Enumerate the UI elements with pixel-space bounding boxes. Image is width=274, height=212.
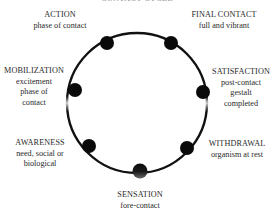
stage-desc: gestalt — [208, 88, 274, 99]
stage-desc: biological — [2, 159, 78, 170]
dot-sensation — [133, 164, 148, 179]
stage-title: FINAL CONTACT — [176, 10, 272, 21]
label-awareness: AWARENESS need, social or biological — [2, 138, 78, 170]
stage-title: AWARENESS — [2, 138, 78, 149]
stage-title: WITHDRAWAL — [200, 139, 274, 150]
label-final-contact: FINAL CONTACT full and vibrant — [176, 10, 272, 31]
stage-desc: contact — [0, 98, 68, 109]
dot-final-contact — [164, 36, 178, 50]
label-withdrawal: WITHDRAWAL organism at rest — [200, 139, 274, 160]
stage-desc: post-contact — [208, 78, 274, 89]
stage-desc: organism at rest — [200, 150, 274, 161]
stage-title: ACTION — [20, 10, 100, 21]
stage-title: SENSATION — [90, 190, 190, 201]
dot-mobilization — [68, 83, 82, 97]
label-satisfaction: SATISFACTION post-contact gestalt comple… — [208, 67, 274, 109]
stage-title: MOBILIZATION — [0, 66, 68, 77]
label-action: ACTION phase of contact — [20, 10, 100, 31]
label-sensation: SENSATION fore-contact — [90, 190, 190, 211]
stage-desc: completed — [208, 99, 274, 110]
label-mobilization: MOBILIZATION excitement phase of contact — [0, 66, 68, 108]
stage-desc: phase of contact — [20, 21, 100, 32]
stage-desc: excitement — [0, 77, 68, 88]
stage-desc: fore-contact — [90, 201, 190, 212]
stage-title: SATISFACTION — [208, 67, 274, 78]
dot-action — [100, 36, 114, 50]
stage-desc: full and vibrant — [176, 21, 272, 32]
dot-awareness — [82, 139, 96, 153]
dot-withdrawal — [180, 141, 194, 155]
stage-desc: need, social or — [2, 149, 78, 160]
stage-desc: phase of — [0, 87, 68, 98]
